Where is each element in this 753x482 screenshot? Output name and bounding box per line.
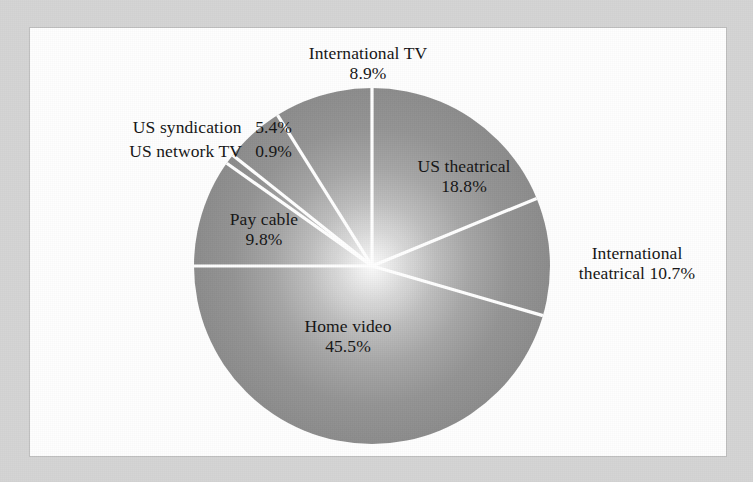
slice-label-international-tv: International TV 8.9%: [261, 43, 475, 84]
slice-label-us-theatrical-name: US theatrical: [388, 156, 540, 176]
slice-label-us-syndication-name: US syndication: [133, 117, 242, 137]
slice-label-us-theatrical-value: 18.8%: [388, 176, 540, 196]
slice-label-international-tv-value: 8.9%: [261, 63, 475, 83]
pie-chart: [30, 28, 726, 456]
chart-canvas: International TV 8.9% US syndication 5.4…: [30, 28, 726, 456]
slice-label-us-syndication-value: 5.4%: [255, 117, 292, 137]
slice-label-us-network-tv-value: 0.9%: [255, 141, 292, 161]
figure-root: International TV 8.9% US syndication 5.4…: [0, 0, 753, 482]
slice-label-international-tv-name: International TV: [261, 43, 475, 63]
slice-label-home-video-name: Home video: [268, 316, 428, 336]
slice-label-us-network-tv-name: US network TV: [129, 141, 241, 161]
slice-label-us-network-tv: US network TV 0.9%: [38, 141, 292, 161]
slice-label-home-video: Home video 45.5%: [268, 316, 428, 357]
slice-label-pay-cable: Pay cable 9.8%: [198, 209, 330, 250]
slice-label-pay-cable-name: Pay cable: [198, 209, 330, 229]
pie-chart-svg: [30, 28, 726, 456]
slice-label-us-syndication: US syndication 5.4%: [58, 117, 292, 137]
slice-label-pay-cable-value: 9.8%: [198, 229, 330, 249]
slice-label-international-theatrical: International theatrical 10.7%: [544, 243, 726, 284]
slice-label-us-theatrical: US theatrical 18.8%: [388, 156, 540, 197]
slice-label-international-theatrical-value: theatrical 10.7%: [544, 263, 726, 283]
slice-label-home-video-value: 45.5%: [268, 336, 428, 356]
slice-label-international-theatrical-name: International: [544, 243, 726, 263]
